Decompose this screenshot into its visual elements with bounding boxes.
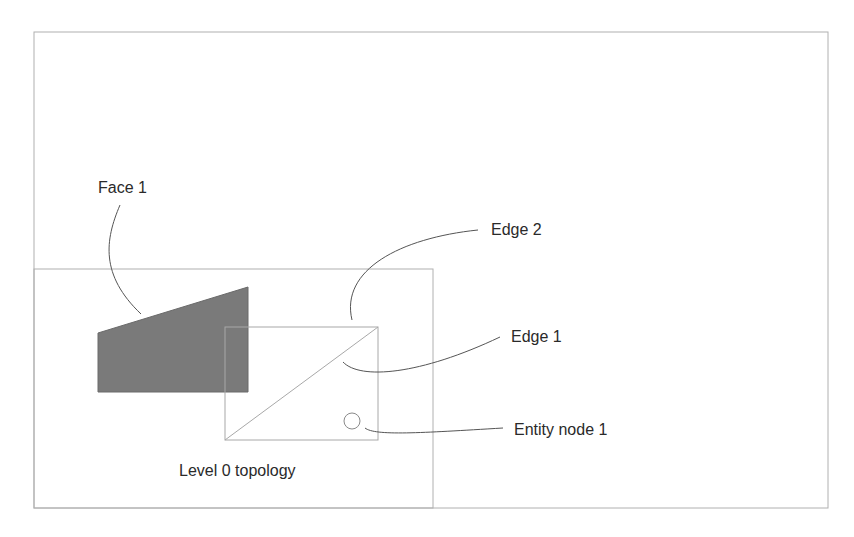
outer-frame <box>34 32 828 508</box>
level-0-topology-label: Level 0 topology <box>179 463 296 479</box>
entity-node-leader <box>365 428 503 433</box>
edge-2-leader <box>350 230 478 320</box>
entity-node-1-label: Entity node 1 <box>514 422 607 438</box>
edge-1-label: Edge 1 <box>511 329 562 345</box>
face-1-label: Face 1 <box>98 180 147 196</box>
face-1-leader <box>109 205 141 314</box>
edge-2-label: Edge 2 <box>491 222 542 238</box>
entity-node-circle <box>344 413 360 429</box>
topology-diagram <box>0 0 854 537</box>
edge-1-leader <box>343 337 500 372</box>
